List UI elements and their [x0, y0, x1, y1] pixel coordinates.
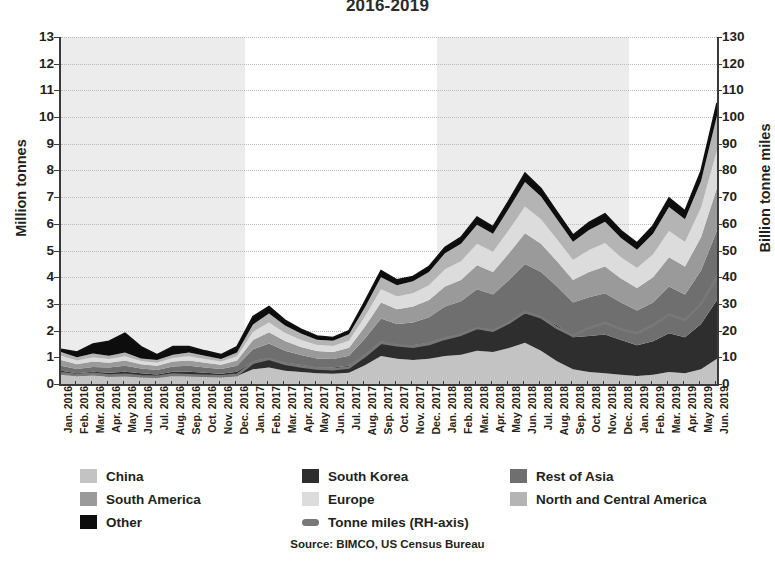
x-tick-label: Mar. 2019: [671, 386, 682, 433]
x-tickmark: [123, 381, 124, 386]
y-tickmark-right: [717, 117, 722, 118]
x-tickmark: [171, 381, 172, 386]
y-tick-right: 110: [722, 85, 744, 95]
x-tick-label: Feb. 2019: [655, 386, 666, 434]
x-tickmark: [203, 381, 204, 386]
y-tick-right: 90: [722, 139, 737, 149]
x-tick-label: Jan. 2018: [447, 386, 458, 433]
x-tick-label: Dec. 2018: [623, 386, 634, 434]
x-tickmark: [619, 381, 620, 386]
x-tick-label: Feb. 2018: [463, 386, 474, 434]
y-tick-right: 60: [722, 219, 737, 229]
x-tickmark: [507, 381, 508, 386]
y-tick-right: 100: [722, 112, 745, 122]
x-tickmark: [315, 381, 316, 386]
y-tick-right: 30: [722, 299, 737, 309]
x-tickmark: [379, 381, 380, 386]
x-tickmark: [587, 381, 588, 386]
x-tick-label: Aug. 2016: [175, 386, 186, 436]
legend-item[interactable]: Tonne miles (RH-axis): [302, 512, 469, 532]
legend-item[interactable]: North and Central America: [510, 489, 707, 509]
y-tickmark-right: [717, 357, 722, 358]
x-tickmark: [635, 381, 636, 386]
y-tickmark-right: [717, 64, 722, 65]
legend-swatch-icon: [80, 469, 97, 483]
y-tickmark-right: [717, 277, 722, 278]
x-tick-label: Apr. 2019: [687, 386, 698, 433]
y-axis-right-tickmarks: [716, 37, 722, 384]
legend-item[interactable]: Europe: [302, 489, 375, 509]
x-tickmark: [139, 381, 140, 386]
x-tickmark: [667, 381, 668, 386]
legend-item[interactable]: China: [80, 466, 144, 486]
x-tickmark: [283, 381, 284, 386]
y-tick-right: 20: [722, 326, 737, 336]
x-tickmark: [683, 381, 684, 386]
legend-item[interactable]: Other: [80, 512, 142, 532]
x-tick-label: Mar. 2018: [479, 386, 490, 433]
x-tickmark: [603, 381, 604, 386]
x-tickmark: [107, 381, 108, 386]
x-tick-label: Feb. 2017: [271, 386, 282, 434]
y-tickmark-left: [54, 90, 59, 91]
x-tick-label: May 2017: [319, 386, 330, 433]
x-tickmark: [267, 381, 268, 386]
legend-label: Tonne miles (RH-axis): [328, 515, 469, 530]
line-tonne-miles: [61, 277, 717, 377]
x-tick-label: Oct. 2017: [399, 386, 410, 433]
x-tickmark: [219, 381, 220, 386]
x-tick-label: Mar. 2016: [95, 386, 106, 433]
chart-title: 2016-2019: [0, 0, 775, 16]
x-tick-label: Jul. 2018: [543, 386, 554, 430]
legend-swatch-icon: [80, 492, 97, 506]
x-tickmark: [651, 381, 652, 386]
x-tick-label: Jan. 2016: [63, 386, 74, 433]
y-tick-left: 12: [10, 59, 54, 69]
y-tick-left: 11: [10, 85, 54, 95]
x-tickmark: [555, 381, 556, 386]
x-axis-ticks: Jan. 2016Feb. 2016Mar. 2016Apr. 2016May …: [59, 386, 715, 464]
y-tickmark-right: [717, 331, 722, 332]
y-tick-left: 3: [10, 299, 54, 309]
x-tick-label: Apr. 2017: [303, 386, 314, 433]
source-note: Source: BIMCO, US Census Bureau: [0, 538, 775, 550]
x-tickmark: [539, 381, 540, 386]
x-tick-label: Sep. 2017: [383, 386, 394, 434]
y-tickmark-right: [717, 90, 722, 91]
y-tick-right: 120: [722, 59, 745, 69]
legend-item[interactable]: South Korea: [302, 466, 408, 486]
y-tick-left: 13: [10, 32, 54, 42]
x-tickmark: [155, 381, 156, 386]
legend-swatch-icon: [302, 519, 319, 526]
plot-area: [59, 37, 719, 386]
x-tick-label: Nov. 2017: [415, 386, 426, 434]
y-tickmark-right: [717, 170, 722, 171]
y-tick-left: 0: [10, 379, 54, 389]
x-tickmark: [91, 381, 92, 386]
x-tickmark: [571, 381, 572, 386]
x-tick-label: Jun. 2019: [719, 386, 730, 434]
y-tick-left: 2: [10, 326, 54, 336]
x-tick-label: Dec. 2017: [431, 386, 442, 434]
y-tickmark-right: [717, 224, 722, 225]
x-tick-label: May 2019: [703, 386, 714, 433]
x-tickmark: [299, 381, 300, 386]
y-tick-right: 130: [722, 32, 745, 42]
legend-label: Other: [106, 515, 142, 530]
x-tick-label: Apr. 2018: [495, 386, 506, 433]
x-tick-label: Jan. 2019: [639, 386, 650, 433]
legend-swatch-icon: [302, 469, 319, 483]
y-tickmark-left: [54, 64, 59, 65]
x-tickmark: [347, 381, 348, 386]
x-tick-label: Jul. 2016: [159, 386, 170, 430]
legend-swatch-icon: [80, 515, 97, 529]
y-tickmark-right: [717, 304, 722, 305]
x-tick-label: May 2018: [511, 386, 522, 433]
legend-item[interactable]: South America: [80, 489, 201, 509]
x-tickmark: [331, 381, 332, 386]
x-tick-label: Jun. 2018: [527, 386, 538, 434]
x-tick-label: Sep. 2016: [191, 386, 202, 434]
x-tickmark: [523, 381, 524, 386]
legend-item[interactable]: Rest of Asia: [510, 466, 614, 486]
tonne-miles-line: [61, 37, 717, 384]
